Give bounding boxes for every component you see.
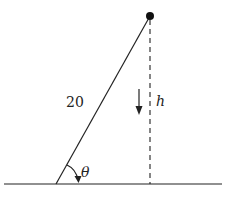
angle-arc-arrow-icon [67, 165, 82, 183]
diagram-canvas: 20 h θ [0, 0, 237, 199]
down-arrow-icon [136, 89, 143, 115]
length-label: 20 [66, 94, 84, 110]
height-label: h [156, 93, 165, 109]
top-point [146, 12, 154, 20]
angle-label: θ [81, 164, 90, 180]
